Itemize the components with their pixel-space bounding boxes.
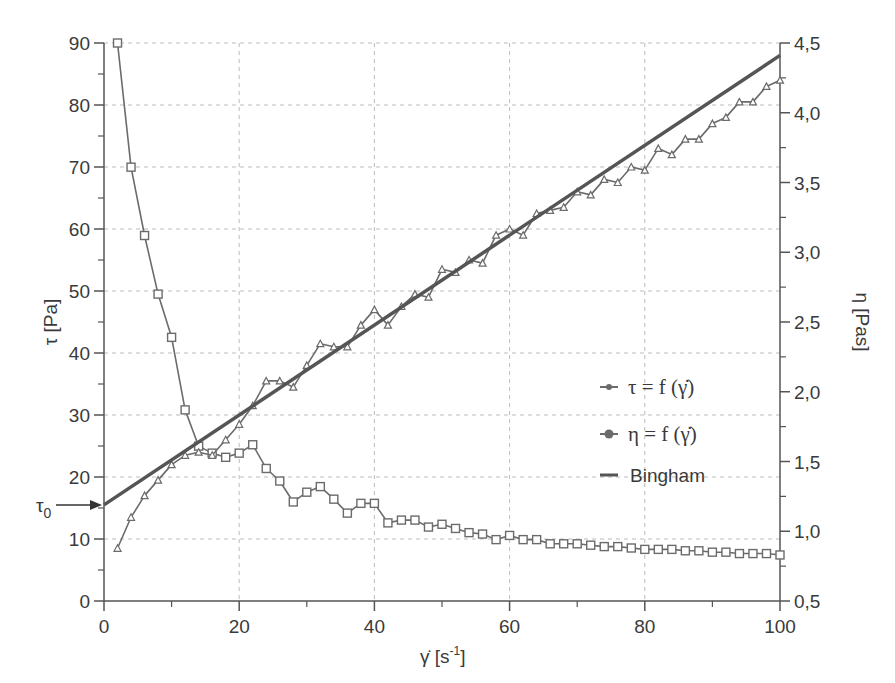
eta-data-point (357, 499, 365, 507)
y-left-tick-label: 30 (69, 405, 90, 426)
y-right-tick-label: 4,0 (794, 103, 820, 124)
eta-data-point (262, 464, 270, 472)
legend-tau-marker-icon (606, 384, 612, 390)
y-axis-left-title: τ [Pa] (40, 299, 61, 346)
x-axis-title: γ̇ [s-1] (420, 644, 466, 667)
y-left-tick-label: 50 (69, 281, 90, 302)
eta-data-point (343, 509, 351, 517)
y-right-tick-label: 2,0 (794, 382, 820, 403)
eta-data-point (384, 519, 392, 527)
eta-data-point (465, 529, 473, 537)
legend: τ = f (γ̇) η = f (γ̇) Bingham (600, 375, 705, 486)
legend-item-eta: η = f (γ̇) (600, 422, 697, 446)
eta-data-point (154, 290, 162, 298)
y-right-tick-label: 3,0 (794, 242, 820, 263)
chart-canvas: 01020304050607080900204060801000,51,01,5… (0, 0, 895, 683)
y-left-tick-label: 80 (69, 95, 90, 116)
eta-data-point (695, 547, 703, 555)
eta-data-point (776, 551, 784, 559)
y-left-tick-label: 60 (69, 219, 90, 240)
x-tick-label: 60 (499, 616, 520, 637)
legend-tau-label: τ = f (γ̇) (628, 375, 694, 399)
x-axis-title-end: ] (460, 646, 465, 667)
legend-eta-label: η = f (γ̇) (628, 422, 697, 446)
eta-data-point (370, 499, 378, 507)
eta-data-point (127, 163, 135, 171)
eta-data-point (235, 449, 243, 457)
eta-data-point (452, 524, 460, 532)
eta-data-point (587, 541, 595, 549)
eta-data-point (708, 548, 716, 556)
y-left-tick-label: 90 (69, 33, 90, 54)
eta-data-point (492, 536, 500, 544)
y-left-tick-label: 20 (69, 467, 90, 488)
y-right-tick-label: 1,5 (794, 452, 820, 473)
eta-data-point (289, 498, 297, 506)
y-right-tick-label: 4,5 (794, 33, 820, 54)
eta-data-point (722, 548, 730, 556)
eta-data-point (546, 540, 554, 548)
x-tick-label: 40 (364, 616, 385, 637)
eta-data-point (614, 543, 622, 551)
x-axis-title-base: γ̇ [s (420, 646, 450, 667)
eta-data-point (141, 232, 149, 240)
eta-data-point (411, 516, 419, 524)
legend-bingham-label: Bingham (630, 465, 705, 486)
eta-data-point (573, 540, 581, 548)
y-right-tick-label: 2,5 (794, 312, 820, 333)
eta-data-point (114, 39, 122, 47)
eta-data-point (438, 520, 446, 528)
eta-data-point (533, 536, 541, 544)
eta-data-point (560, 540, 568, 548)
x-tick-label: 80 (634, 616, 655, 637)
eta-data-point (681, 547, 689, 555)
y-right-tick-label: 0,5 (794, 591, 820, 612)
y-right-tick-label: 1,0 (794, 521, 820, 542)
eta-data-point (641, 545, 649, 553)
eta-data-point (303, 488, 311, 496)
eta-data-point (654, 545, 662, 553)
legend-item-tau: τ = f (γ̇) (600, 375, 694, 399)
y-left-tick-label: 70 (69, 157, 90, 178)
eta-data-point (316, 483, 324, 491)
eta-data-point (168, 333, 176, 341)
eta-data-point (249, 441, 257, 449)
y-left-tick-label: 40 (69, 343, 90, 364)
eta-data-point (735, 550, 743, 558)
x-axis-title-sup: -1 (450, 644, 461, 658)
tau-data-point (655, 145, 662, 152)
eta-data-point (222, 453, 230, 461)
eta-data-point (181, 406, 189, 414)
y-left-tick-label: 0 (79, 591, 90, 612)
y-right-tick-label: 3,5 (794, 173, 820, 194)
tau-data-point (371, 306, 378, 313)
eta-data-point (749, 550, 757, 558)
tau-data-point (114, 545, 121, 552)
eta-data-point (330, 495, 338, 503)
legend-eta-marker-icon (605, 430, 614, 439)
eta-data-point (627, 544, 635, 552)
eta-data-point (276, 477, 284, 485)
eta-data-point (424, 523, 432, 531)
eta-data-point (600, 543, 608, 551)
axes: 01020304050607080900204060801000,51,01,5… (69, 33, 821, 637)
eta-data-point (519, 536, 527, 544)
grid-lines (104, 43, 780, 601)
eta-data-point (668, 545, 676, 553)
legend-item-bingham: Bingham (600, 465, 705, 486)
x-tick-label: 100 (764, 616, 796, 637)
eta-data-point (506, 531, 514, 539)
eta-data-point (479, 530, 487, 538)
tau0-subscript: 0 (44, 505, 52, 521)
tau0-label: τ0 (36, 495, 52, 521)
tau0-annotation: τ0 (36, 495, 102, 521)
x-tick-label: 20 (229, 616, 250, 637)
y-left-tick-label: 10 (69, 529, 90, 550)
x-tick-label: 0 (99, 616, 110, 637)
eta-data-point (762, 550, 770, 558)
y-axis-right-title: η [Pas] (852, 292, 873, 351)
eta-data-point (397, 516, 405, 524)
